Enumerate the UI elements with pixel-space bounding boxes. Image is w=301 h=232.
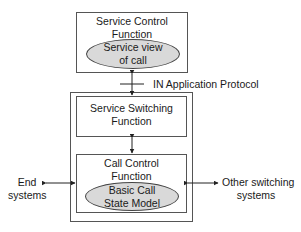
other-switching-systems-label: Other switching systems — [222, 176, 290, 202]
end-systems-line2: systems — [8, 189, 46, 202]
end-systems-label: End systems — [8, 176, 46, 202]
other-switching-line1: Other switching — [222, 176, 290, 189]
end-systems-line1: End — [8, 176, 46, 189]
in-application-protocol-label: IN Application Protocol — [153, 78, 259, 91]
other-switching-line2: systems — [222, 189, 290, 202]
